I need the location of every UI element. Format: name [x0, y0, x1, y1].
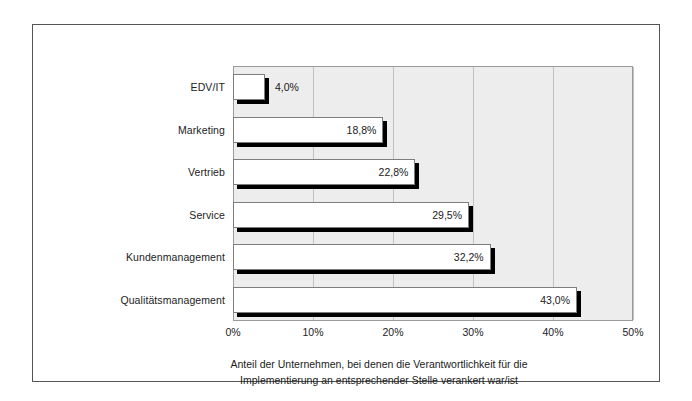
- bar-value-label: 22,8%: [379, 166, 409, 178]
- bar: 22,8%: [233, 159, 415, 185]
- bar-container: 43,0%: [233, 287, 577, 313]
- bar-value-label: 43,0%: [540, 294, 570, 306]
- bar-value-label: 18,8%: [347, 124, 377, 136]
- bar: 18,8%: [233, 117, 383, 143]
- bar-container: 4,0%: [233, 74, 265, 100]
- figure-frame: EDV/IT4,0%Marketing18,8%Vertrieb22,8%Ser…: [32, 24, 660, 382]
- chart-row: Marketing18,8%: [33, 109, 692, 152]
- bar: 43,0%: [233, 287, 577, 313]
- chart-row: EDV/IT4,0%: [33, 66, 692, 109]
- chart-figure: EDV/IT4,0%Marketing18,8%Vertrieb22,8%Ser…: [0, 0, 692, 401]
- category-label: Service: [33, 209, 225, 221]
- x-axis-ticks: 0%10%20%30%40%50%: [233, 326, 633, 342]
- bar: 29,5%: [233, 202, 469, 228]
- bar: 32,2%: [233, 244, 491, 270]
- x-tick-label: 30%: [462, 326, 483, 338]
- bar-value-label: 32,2%: [454, 251, 484, 263]
- x-tick-label: 10%: [302, 326, 323, 338]
- chart-caption: Anteil der Unternehmen, bei denen die Ve…: [65, 356, 692, 388]
- bar-value-label: 29,5%: [432, 209, 462, 221]
- bar: 4,0%: [233, 74, 265, 100]
- bar-value-label: 4,0%: [275, 81, 299, 93]
- caption-line-1: Anteil der Unternehmen, bei denen die Ve…: [65, 356, 692, 372]
- bar-container: 18,8%: [233, 117, 383, 143]
- x-tick-label: 20%: [382, 326, 403, 338]
- category-label: Vertrieb: [33, 166, 225, 178]
- bars-layer: EDV/IT4,0%Marketing18,8%Vertrieb22,8%Ser…: [33, 66, 692, 321]
- chart-row: Service29,5%: [33, 194, 692, 237]
- category-label: Qualitätsmanagement: [33, 294, 225, 306]
- chart-row: Vertrieb22,8%: [33, 151, 692, 194]
- bar-container: 22,8%: [233, 159, 415, 185]
- chart-row: Kundenmanagement32,2%: [33, 236, 692, 279]
- chart-row: Qualitätsmanagement43,0%: [33, 279, 692, 322]
- bar-container: 29,5%: [233, 202, 469, 228]
- category-label: EDV/IT: [33, 81, 225, 93]
- category-label: Kundenmanagement: [33, 251, 225, 263]
- caption-line-2: Implementierung an entsprechender Stelle…: [65, 372, 692, 388]
- bar-container: 32,2%: [233, 244, 491, 270]
- x-tick-label: 0%: [225, 326, 240, 338]
- x-tick-label: 40%: [542, 326, 563, 338]
- category-label: Marketing: [33, 124, 225, 136]
- x-tick-label: 50%: [622, 326, 643, 338]
